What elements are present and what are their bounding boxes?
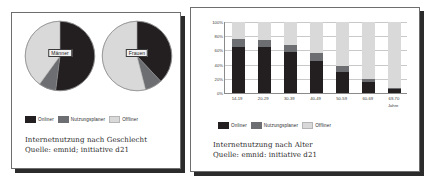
left-panel-shadow-bottom [15,169,185,173]
legend-item-nutzungsplaner: Nutzungsplaner [251,122,298,129]
legend-label-onliner: Onliner [231,123,247,128]
bar-segment-offliner [388,22,401,88]
y-axis-tick-label: 80% [215,34,223,39]
y-axis-tick-label: 20% [215,76,223,81]
pie-chart-frauen: Frauen [100,19,174,93]
x-axis-tick-label: 60-69 [362,96,373,101]
x-axis-tick-label: 14-19 [232,96,243,101]
x-axis-tick-label: 20-29 [258,96,269,101]
y-axis-tick-label: 0% [217,91,223,96]
y-axis-tick-label: 60% [215,48,223,53]
bar-segment-offliner [362,22,375,79]
x-axis-tick-label: 69-70 [389,96,400,101]
bar-segment-offliner [284,22,297,45]
bar-40-49 [310,22,323,93]
pie-frauen-label: Frauen [126,49,148,57]
left-panel: Männer Frauen Onliner Nutzungsplaner [11,12,181,169]
right-panel-legend: Onliner Nutzungsplaner Offliner [218,122,331,129]
y-axis-tick-label: 100% [212,20,223,25]
bar-segment-onliner [362,82,375,93]
pie-chart-maenner: Männer [23,19,97,93]
bar-20-29 [258,22,271,93]
legend-item-nutzungsplaner: Nutzungsplaner [58,116,105,123]
legend-label-onliner: Onliner [38,117,54,122]
left-caption-title: Internetnutzung nach Geschlecht [25,135,147,145]
bar-segment-onliner [232,47,245,93]
x-axis-tick-label: 30-39 [284,96,295,101]
right-panel-caption: Internetnutzung nach Alter Quelle: emnid… [213,140,317,160]
bar-segment-nutzungsplaner [232,39,245,47]
bar-chart-bars [225,22,407,93]
bar-chart-x-unit-label: Jahre [388,103,398,108]
offliner-swatch-icon [109,116,120,123]
bar-69-70 [388,22,401,93]
onliner-swatch-icon [218,122,229,129]
figure-root: Männer Frauen Onliner Nutzungsplaner [0,0,428,184]
bar-segment-offliner [310,22,323,53]
bar-segment-onliner [336,72,349,93]
legend-label-nutzungsplaner: Nutzungsplaner [264,123,298,128]
legend-item-onliner: Onliner [218,122,247,129]
legend-item-offliner: Offliner [109,116,138,123]
offliner-swatch-icon [302,122,313,129]
bar-segment-onliner [310,61,323,93]
bar-30-39 [284,22,297,93]
right-panel-shadow-bottom [194,172,424,176]
bar-50-59 [336,22,349,93]
gridline [225,93,407,94]
bar-segment-nutzungsplaner [310,53,323,61]
bar-chart-plot-area: 0%20%40%60%80%100% [224,22,407,94]
pie-maenner-label: Männer [48,49,72,57]
onliner-swatch-icon [25,116,36,123]
bar-segment-offliner [258,22,271,40]
bar-segment-onliner [258,47,271,93]
y-axis-tick-label: 40% [215,62,223,67]
right-caption-source: Quelle: emnid: initiative d21 [213,150,317,160]
bar-chart: 0%20%40%60%80%100% 14-1920-2930-3940-495… [201,18,413,118]
x-axis-tick-label: 40-49 [310,96,321,101]
bar-14-19 [232,22,245,93]
right-panel-shadow-right [420,11,424,176]
right-panel: 0%20%40%60%80%100% 14-1920-2930-3940-495… [190,7,420,172]
legend-label-offliner: Offliner [122,117,138,122]
legend-item-onliner: Onliner [25,116,54,123]
bar-segment-onliner [284,52,297,93]
pie-chart-group: Männer Frauen [12,19,180,111]
bar-segment-onliner [388,89,401,93]
nutzungsplaner-swatch-icon [58,116,69,123]
legend-item-offliner: Offliner [302,122,331,129]
legend-label-nutzungsplaner: Nutzungsplaner [71,117,105,122]
left-caption-source: Quelle: emnid; initiative d21 [25,145,147,155]
left-panel-shadow-right [181,16,185,173]
left-panel-caption: Internetnutzung nach Geschlecht Quelle: … [25,135,147,155]
bar-60-69 [362,22,375,93]
left-panel-legend: Onliner Nutzungsplaner Offliner [25,116,138,123]
legend-label-offliner: Offliner [315,123,331,128]
x-axis-tick-label: 50-59 [336,96,347,101]
bar-segment-offliner [232,22,245,39]
nutzungsplaner-swatch-icon [251,122,262,129]
bar-segment-offliner [336,22,349,66]
right-caption-title: Internetnutzung nach Alter [213,140,317,150]
